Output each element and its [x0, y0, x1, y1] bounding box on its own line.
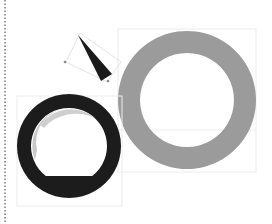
gray-ring[interactable]: [118, 31, 256, 169]
selection-handle[interactable]: [107, 80, 110, 83]
diagram-canvas: [0, 0, 272, 224]
selection-handle[interactable]: [64, 61, 67, 64]
triangle-wedge[interactable]: [78, 35, 112, 81]
